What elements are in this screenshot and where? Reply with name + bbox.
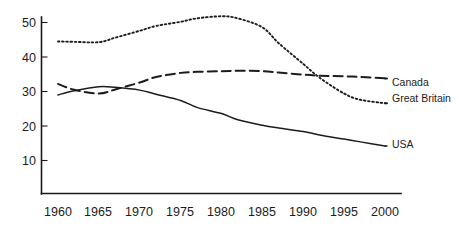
chart-series-layer [58, 16, 387, 146]
y-tick-label-20: 20 [22, 120, 36, 134]
series-label-great-britain: Great Britain [392, 92, 451, 104]
y-tick-label-30: 30 [22, 85, 36, 99]
y-axis-ticks [42, 23, 48, 161]
y-tick-label-40: 40 [22, 51, 36, 65]
x-axis-labels: 1960 1965 1970 1975 1980 1985 1990 1995 … [44, 205, 399, 219]
line-chart: 50 40 30 20 10 1960 1965 1970 1975 1980 … [0, 0, 459, 233]
x-tick-label-2000: 2000 [371, 205, 399, 219]
series-line-usa [58, 86, 385, 146]
x-tick-label-1965: 1965 [84, 205, 112, 219]
series-line-great-britain [58, 16, 385, 103]
x-tick-label-1980: 1980 [207, 205, 235, 219]
chart-page: 50 40 30 20 10 1960 1965 1970 1975 1980 … [0, 0, 459, 233]
x-tick-label-1975: 1975 [166, 205, 194, 219]
y-tick-label-50: 50 [22, 16, 36, 30]
series-label-usa: USA [392, 138, 414, 150]
x-tick-label-1970: 1970 [125, 205, 153, 219]
x-tick-label-1990: 1990 [289, 205, 317, 219]
chart-axes [42, 17, 402, 194]
x-tick-label-1985: 1985 [248, 205, 276, 219]
x-tick-label-1960: 1960 [44, 205, 72, 219]
chart-legend: Canada Great Britain USA [392, 76, 451, 150]
y-tick-label-10: 10 [22, 154, 36, 168]
series-line-canada [58, 71, 385, 94]
x-tick-label-1995: 1995 [330, 205, 358, 219]
series-label-canada: Canada [392, 76, 429, 88]
y-axis-labels: 50 40 30 20 10 [22, 16, 36, 168]
